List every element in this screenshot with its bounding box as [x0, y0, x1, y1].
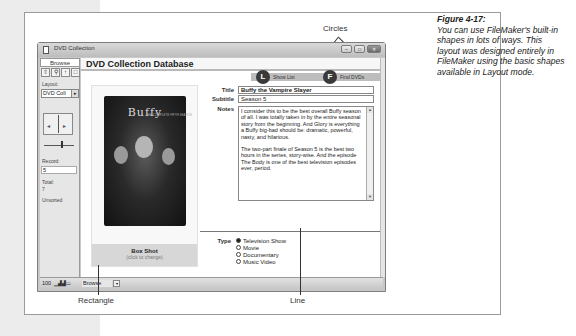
- zoom-level[interactable]: 100: [42, 280, 51, 286]
- callout-circles-label: Circles: [323, 24, 347, 33]
- status-area: Browse ⇧ ⚲ ↑ □ Layout: DVD Coll ▸ ◂ ▸ Re…: [40, 58, 80, 277]
- mode-tab-browse[interactable]: Browse: [40, 58, 80, 67]
- show-list-circle-button[interactable]: L: [256, 70, 270, 84]
- sort-status: Unsorted: [42, 197, 62, 203]
- type-label: Type: [201, 238, 231, 244]
- record-slider-handle[interactable]: [61, 141, 63, 148]
- find-tool-icon[interactable]: ⚲: [51, 68, 60, 77]
- radio-music-video[interactable]: Music Video: [236, 258, 286, 265]
- close-button[interactable]: ✕: [367, 45, 381, 53]
- callout-rectangle-line: [98, 265, 99, 295]
- radio-television-show[interactable]: Television Show: [236, 237, 286, 244]
- next-page-icon[interactable]: ▸: [63, 122, 66, 129]
- radio-empty-icon: [236, 259, 241, 264]
- maximize-button[interactable]: □: [354, 45, 365, 53]
- record-label: Record:: [42, 158, 60, 164]
- header-band: DVD Collection Database: [81, 58, 384, 71]
- figure-caption: Figure 4-17: You can use FileMaker's bui…: [437, 14, 567, 78]
- record-slider-track[interactable]: [44, 145, 74, 146]
- subtitle-field[interactable]: Season 5: [238, 95, 374, 103]
- show-list-label[interactable]: Show List: [273, 74, 295, 80]
- radio-empty-icon: [236, 252, 241, 257]
- window-vertical-scrollbar[interactable]: [380, 58, 385, 277]
- radio-selected-icon: [236, 238, 241, 243]
- previous-page-icon[interactable]: ◂: [47, 122, 50, 129]
- box-shot-container[interactable]: Buffy THE COMPLETE FIFTH SEASON Box Shot…: [91, 85, 198, 267]
- preview-tool-icon[interactable]: □: [71, 68, 80, 77]
- filemaker-window: DVD Collection – □ ✕ Browse ⇧ ⚲ ↑ □ Layo…: [37, 42, 386, 292]
- title-label: Title: [204, 87, 234, 93]
- notes-label: Notes: [204, 106, 234, 112]
- scroll-down-icon[interactable]: ▼: [367, 194, 373, 200]
- type-radio-group: Television Show Movie Documentary Music …: [236, 237, 286, 265]
- subtitle-label: Subtitle: [204, 96, 234, 102]
- record-book-icon[interactable]: ◂ ▸: [43, 113, 73, 135]
- layout-content: DVD Collection Database L Show List F Fi…: [81, 58, 384, 277]
- layout-select[interactable]: DVD Coll ▸: [41, 89, 79, 98]
- browse-tool-icon[interactable]: ⇧: [41, 68, 50, 77]
- separator-line: [200, 231, 384, 232]
- callout-line-label: Line: [290, 296, 305, 305]
- layout-label: Layout:: [42, 81, 58, 87]
- zoom-icons[interactable]: ▁▟▟▭: [54, 280, 71, 286]
- total-value: 7: [42, 186, 45, 192]
- find-dvds-label[interactable]: Find DVDs: [340, 74, 364, 80]
- notes-paragraph-1: I consider this to be the best overall B…: [241, 108, 364, 140]
- radio-movie[interactable]: Movie: [236, 244, 286, 251]
- cover-caption: THE COMPLETE FIFTH SEASON: [104, 110, 234, 216]
- dvd-cover-image[interactable]: Buffy THE COMPLETE FIFTH SEASON: [104, 96, 186, 226]
- notes-scrollbar[interactable]: ▲ ▼: [366, 107, 373, 200]
- notes-field[interactable]: I consider this to be the best overall B…: [238, 106, 374, 201]
- figure-number: Figure 4-17:: [437, 14, 567, 25]
- layout-tool-icon[interactable]: ↑: [61, 68, 70, 77]
- scroll-up-icon[interactable]: ▲: [367, 107, 373, 113]
- figure-caption-text: You can use FileMaker's built-in shapes …: [437, 25, 565, 77]
- box-shot-rectangle: Box Shot (click to change): [92, 244, 197, 266]
- notes-paragraph-2: The two-part finale of Season 5 is the b…: [241, 146, 364, 172]
- callout-rectangle-label: Rectangle: [78, 296, 114, 305]
- radio-empty-icon: [236, 245, 241, 250]
- title-field[interactable]: Buffy the Vampire Slayer: [238, 86, 374, 94]
- minimize-button[interactable]: –: [341, 45, 352, 53]
- callout-line-line: [300, 228, 301, 295]
- mode-popup[interactable]: Browse: [82, 280, 112, 287]
- mode-tools: ⇧ ⚲ ↑ □: [41, 68, 80, 77]
- window-bottom-bar: 100 ▁▟▟▭ Browse ▾: [40, 277, 383, 289]
- find-dvds-circle-button[interactable]: F: [323, 70, 337, 84]
- box-shot-hint: (click to change): [92, 254, 197, 260]
- radio-documentary[interactable]: Documentary: [236, 251, 286, 258]
- window-title: DVD Collection: [54, 45, 95, 51]
- record-number-input[interactable]: 5: [41, 166, 77, 174]
- total-label: Total:: [42, 179, 54, 185]
- mode-popup-arrow-icon[interactable]: ▾: [113, 280, 120, 287]
- chevron-down-icon: ▸: [71, 90, 78, 97]
- database-title: DVD Collection Database: [86, 59, 194, 69]
- window-titlebar[interactable]: DVD Collection – □ ✕: [38, 43, 385, 57]
- document-icon: [43, 46, 49, 54]
- layout-select-value: DVD Coll: [43, 90, 66, 96]
